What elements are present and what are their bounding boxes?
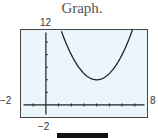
graph-plot: [0, 0, 158, 138]
decorative-bar: [57, 133, 108, 138]
